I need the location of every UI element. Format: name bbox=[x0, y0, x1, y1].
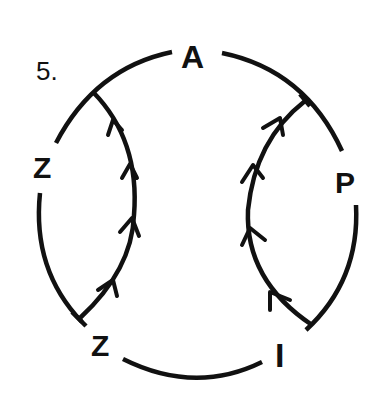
arc-top-left bbox=[56, 52, 172, 143]
outer-circle bbox=[39, 52, 356, 378]
arrow-icon bbox=[242, 228, 265, 245]
letter-left: Z bbox=[33, 151, 51, 184]
right-seam bbox=[242, 94, 312, 325]
puzzle-diagram: 5. A P I Z Z bbox=[0, 0, 379, 407]
letter-bottom-right: I bbox=[275, 336, 284, 374]
letter-bottom-left: Z bbox=[91, 329, 109, 362]
letter-top: A bbox=[181, 39, 204, 75]
arrow-icon bbox=[122, 164, 137, 178]
puzzle-number: 5. bbox=[36, 56, 58, 86]
arc-left bbox=[39, 193, 82, 322]
arrow-icon bbox=[120, 218, 139, 236]
arc-right bbox=[306, 205, 356, 330]
left-seam bbox=[72, 92, 139, 326]
letter-right: P bbox=[335, 166, 355, 199]
arc-bottom bbox=[123, 359, 262, 378]
right-seam-line bbox=[248, 101, 312, 325]
